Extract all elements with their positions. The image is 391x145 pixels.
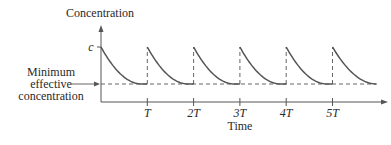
y-axis-arrow-icon	[99, 25, 104, 32]
concentration-decay-curve	[194, 47, 240, 84]
dosing-chart: Concentration Time c Minimum effective c…	[0, 0, 391, 145]
x-tick-label: 2T	[187, 106, 201, 120]
concentration-decay-curve	[333, 47, 377, 84]
x-tick-label: 3T	[233, 106, 248, 120]
x-axis-label: Time	[228, 119, 253, 133]
x-axis-arrow-icon	[381, 100, 388, 105]
min-effective-arrow-icon	[94, 82, 100, 87]
concentration-decay-curve	[147, 47, 193, 84]
x-tick-label: T	[144, 106, 152, 120]
min-effective-label-line3: concentration	[18, 89, 83, 103]
concentration-decay-curve	[286, 47, 332, 84]
y-axis-label: Concentration	[66, 6, 134, 20]
x-tick-label: 4T	[280, 106, 294, 120]
y-tick-label-c: c	[88, 40, 94, 54]
concentration-decay-curve	[240, 47, 286, 84]
concentration-decay-curve	[101, 47, 147, 84]
x-tick-label: 5T	[326, 106, 340, 120]
